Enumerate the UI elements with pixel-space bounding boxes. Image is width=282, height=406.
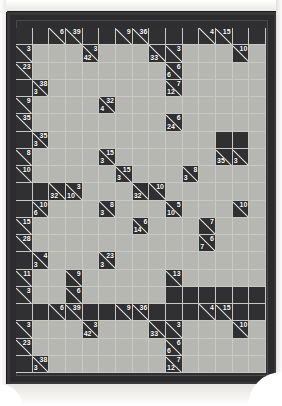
grid-cell-open[interactable] xyxy=(183,80,200,97)
grid-cell-open[interactable] xyxy=(233,339,250,356)
grid-cell-open[interactable] xyxy=(83,183,100,200)
grid-cell-open[interactable] xyxy=(133,80,150,97)
grid-cell-open[interactable] xyxy=(83,149,100,166)
grid-cell-open[interactable] xyxy=(33,235,50,252)
grid-cell-open[interactable] xyxy=(199,80,216,97)
grid-cell-open[interactable] xyxy=(199,339,216,356)
grid-cell-open[interactable] xyxy=(33,270,50,287)
grid-cell-open[interactable] xyxy=(183,235,200,252)
grid-cell-open[interactable] xyxy=(183,270,200,287)
grid-cell-open[interactable] xyxy=(99,235,116,252)
grid-cell-open[interactable] xyxy=(33,45,50,62)
grid-cell-open[interactable] xyxy=(216,218,233,235)
grid-cell-open[interactable] xyxy=(216,166,233,183)
grid-cell-open[interactable] xyxy=(66,166,83,183)
grid-cell-open[interactable] xyxy=(66,321,83,338)
grid-cell-open[interactable] xyxy=(99,183,116,200)
grid-cell-open[interactable] xyxy=(183,356,200,373)
grid-cell-open[interactable] xyxy=(83,114,100,131)
grid-cell-open[interactable] xyxy=(49,166,66,183)
grid-cell-open[interactable] xyxy=(149,201,166,218)
grid-cell-open[interactable] xyxy=(116,80,133,97)
grid-cell-open[interactable] xyxy=(116,270,133,287)
grid-cell-open[interactable] xyxy=(99,321,116,338)
grid-cell-open[interactable] xyxy=(116,149,133,166)
grid-cell-open[interactable] xyxy=(149,114,166,131)
grid-cell-open[interactable] xyxy=(199,321,216,338)
grid-cell-open[interactable] xyxy=(216,114,233,131)
grid-cell-open[interactable] xyxy=(116,356,133,373)
grid-cell-open[interactable] xyxy=(183,45,200,62)
grid-cell-open[interactable] xyxy=(66,356,83,373)
grid-cell-open[interactable] xyxy=(49,114,66,131)
grid-cell-open[interactable] xyxy=(199,201,216,218)
grid-cell-open[interactable] xyxy=(116,218,133,235)
grid-cell-open[interactable] xyxy=(249,149,266,166)
grid-cell-open[interactable] xyxy=(249,235,266,252)
grid-cell-open[interactable] xyxy=(49,235,66,252)
grid-cell-open[interactable] xyxy=(233,235,250,252)
grid-cell-open[interactable] xyxy=(99,339,116,356)
grid-cell-open[interactable] xyxy=(116,132,133,149)
grid-cell-open[interactable] xyxy=(83,339,100,356)
grid-cell-open[interactable] xyxy=(133,63,150,80)
grid-cell-open[interactable] xyxy=(116,183,133,200)
grid-cell-open[interactable] xyxy=(99,356,116,373)
grid-cell-open[interactable] xyxy=(83,80,100,97)
grid-cell-open[interactable] xyxy=(149,149,166,166)
grid-cell-open[interactable] xyxy=(49,252,66,269)
grid-cell-open[interactable] xyxy=(116,339,133,356)
grid-cell-open[interactable] xyxy=(133,166,150,183)
grid-cell-open[interactable] xyxy=(233,183,250,200)
grid-cell-open[interactable] xyxy=(199,149,216,166)
grid-cell-open[interactable] xyxy=(83,252,100,269)
grid-cell-open[interactable] xyxy=(249,132,266,149)
grid-cell-open[interactable] xyxy=(249,218,266,235)
grid-cell-open[interactable] xyxy=(249,45,266,62)
grid-cell-open[interactable] xyxy=(149,80,166,97)
grid-cell-open[interactable] xyxy=(183,132,200,149)
grid-cell-open[interactable] xyxy=(116,114,133,131)
grid-cell-open[interactable] xyxy=(99,132,116,149)
grid-cell-open[interactable] xyxy=(249,321,266,338)
grid-cell-open[interactable] xyxy=(133,356,150,373)
grid-cell-open[interactable] xyxy=(216,339,233,356)
grid-cell-open[interactable] xyxy=(49,132,66,149)
grid-cell-open[interactable] xyxy=(249,97,266,114)
grid-cell-open[interactable] xyxy=(233,252,250,269)
grid-cell-open[interactable] xyxy=(133,252,150,269)
grid-cell-open[interactable] xyxy=(83,132,100,149)
grid-cell-open[interactable] xyxy=(116,45,133,62)
grid-cell-open[interactable] xyxy=(233,356,250,373)
grid-cell-open[interactable] xyxy=(199,45,216,62)
grid-cell-open[interactable] xyxy=(166,252,183,269)
grid-cell-open[interactable] xyxy=(133,287,150,304)
grid-cell-open[interactable] xyxy=(49,45,66,62)
grid-cell-open[interactable] xyxy=(233,270,250,287)
grid-cell-open[interactable] xyxy=(49,149,66,166)
grid-cell-open[interactable] xyxy=(216,252,233,269)
grid-cell-open[interactable] xyxy=(183,321,200,338)
grid-cell-open[interactable] xyxy=(66,201,83,218)
grid-cell-open[interactable] xyxy=(33,218,50,235)
grid-cell-open[interactable] xyxy=(149,252,166,269)
grid-cell-open[interactable] xyxy=(249,356,266,373)
grid-cell-open[interactable] xyxy=(66,339,83,356)
grid-cell-open[interactable] xyxy=(149,287,166,304)
grid-cell-open[interactable] xyxy=(183,97,200,114)
grid-cell-open[interactable] xyxy=(99,80,116,97)
grid-cell-open[interactable] xyxy=(83,63,100,80)
grid-cell-open[interactable] xyxy=(133,45,150,62)
grid-cell-open[interactable] xyxy=(183,63,200,80)
grid-cell-open[interactable] xyxy=(199,166,216,183)
grid-cell-open[interactable] xyxy=(83,235,100,252)
grid-cell-open[interactable] xyxy=(199,63,216,80)
grid-cell-open[interactable] xyxy=(33,97,50,114)
grid-cell-open[interactable] xyxy=(199,183,216,200)
grid-cell-open[interactable] xyxy=(83,270,100,287)
grid-cell-open[interactable] xyxy=(216,235,233,252)
grid-cell-open[interactable] xyxy=(49,287,66,304)
grid-cell-open[interactable] xyxy=(199,270,216,287)
grid-cell-open[interactable] xyxy=(183,339,200,356)
grid-cell-open[interactable] xyxy=(149,339,166,356)
